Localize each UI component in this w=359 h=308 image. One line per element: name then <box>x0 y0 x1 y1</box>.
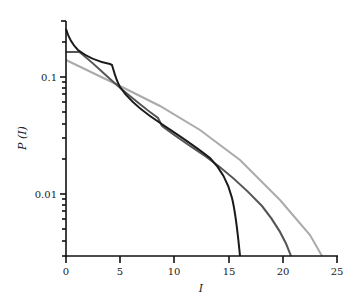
y-tick-0.01: 0.01 <box>35 189 57 200</box>
x-tick-10: 10 <box>168 266 181 277</box>
x-tick-5: 5 <box>117 266 123 277</box>
series-dark-gray <box>66 52 291 256</box>
x-tick-25: 25 <box>331 266 344 277</box>
y-tick-0.1: 0.1 <box>41 72 57 83</box>
chart: 0 5 10 15 20 25 0.1 0.01 I P (I) <box>0 0 359 308</box>
series-light-gray <box>66 60 322 256</box>
y-axis <box>60 21 66 257</box>
x-tick-20: 20 <box>277 266 290 277</box>
y-axis-label: P (I) <box>16 126 29 151</box>
x-tick-0: 0 <box>63 266 69 277</box>
x-axis-label: I <box>198 282 204 295</box>
x-axis <box>65 256 338 263</box>
x-tick-15: 15 <box>223 266 236 277</box>
